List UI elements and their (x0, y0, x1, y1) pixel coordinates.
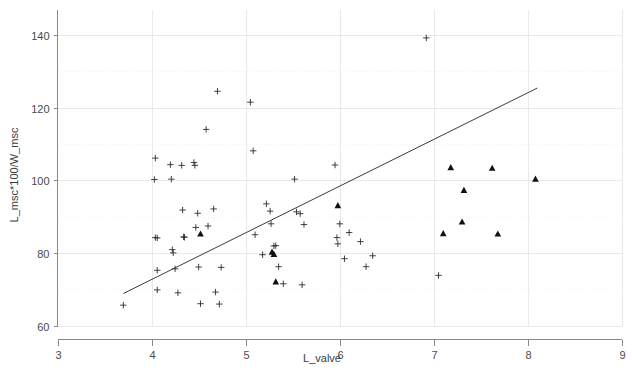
data-point-plus (334, 234, 340, 240)
x-tick-label: 3 (55, 349, 61, 361)
data-point-plus (178, 162, 184, 168)
tick-labels: 60801001201403456789 (31, 30, 625, 361)
data-point-triangle (489, 165, 496, 171)
y-axis-title: L_msc*100/W_msc (8, 127, 20, 222)
x-tick-label: 5 (243, 349, 249, 361)
data-point-plus (191, 159, 197, 165)
data-point-triangle (197, 230, 204, 236)
scatter-plot-figure: 60801001201403456789 L_valve L_msc*100/W… (0, 0, 632, 372)
major-gridlines (58, 10, 623, 327)
regression-line-path (123, 88, 537, 294)
y-tick-label: 140 (31, 30, 49, 42)
data-point-plus (175, 290, 181, 296)
data-point-plus (170, 250, 176, 256)
y-tick-label: 100 (31, 175, 49, 187)
data-point-triangle (494, 230, 501, 236)
data-points (120, 35, 539, 309)
axis-lines (58, 10, 623, 340)
data-point-plus (363, 263, 369, 269)
data-point-plus (214, 88, 220, 94)
data-point-plus (193, 224, 199, 230)
data-point-plus (205, 223, 211, 229)
data-point-plus (250, 148, 256, 154)
data-point-plus (275, 263, 281, 269)
x-tick-label: 8 (525, 349, 531, 361)
data-point-plus (154, 287, 160, 293)
data-point-plus (357, 238, 363, 244)
regression-line (123, 88, 537, 294)
data-point-plus (154, 267, 160, 273)
x-axis-title: L_valve (303, 352, 341, 364)
y-tick-label: 120 (31, 103, 49, 115)
data-point-plus (179, 207, 185, 213)
data-point-plus (203, 126, 209, 132)
data-point-plus (212, 289, 218, 295)
data-point-plus (192, 162, 198, 168)
data-point-plus (152, 155, 158, 161)
data-point-plus (346, 229, 352, 235)
data-point-plus (332, 162, 338, 168)
data-point-plus (280, 281, 286, 287)
data-point-triangle (459, 218, 466, 224)
x-tick-label: 9 (619, 349, 625, 361)
data-point-triangle (272, 278, 279, 284)
data-point-plus (299, 282, 305, 288)
chart-canvas: 60801001201403456789 L_valve L_msc*100/W… (0, 0, 632, 372)
y-tick-label: 80 (37, 248, 49, 260)
data-point-plus (197, 301, 203, 307)
data-point-plus (181, 234, 187, 240)
data-point-triangle (461, 187, 468, 193)
x-tick-label: 7 (431, 349, 437, 361)
data-point-plus (267, 208, 273, 214)
data-point-plus (167, 161, 173, 167)
data-point-triangle (440, 230, 447, 236)
data-point-plus (252, 232, 258, 238)
data-point-triangle (447, 164, 454, 170)
data-point-plus (210, 206, 216, 212)
data-point-plus (301, 221, 307, 227)
data-point-plus (337, 221, 343, 227)
data-point-plus (247, 99, 253, 105)
data-point-plus (195, 264, 201, 270)
data-point-plus (216, 301, 222, 307)
y-tick-label: 60 (37, 321, 49, 333)
data-point-plus (194, 210, 200, 216)
data-point-plus (291, 176, 297, 182)
data-point-plus (263, 201, 269, 207)
x-tick-label: 4 (149, 349, 155, 361)
data-point-plus (120, 302, 126, 308)
data-point-triangle (532, 176, 539, 182)
tick-marks (54, 36, 623, 346)
data-point-plus (259, 251, 265, 257)
data-point-plus (218, 264, 224, 270)
data-point-plus (169, 246, 175, 252)
data-point-plus (341, 255, 347, 261)
data-point-plus (168, 176, 174, 182)
data-point-plus (435, 272, 441, 278)
